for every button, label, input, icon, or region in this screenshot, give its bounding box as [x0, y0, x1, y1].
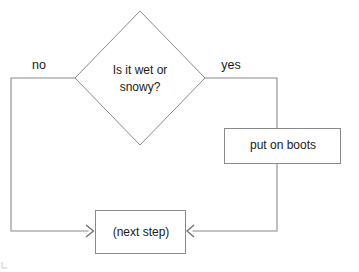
flowchart-svg: Is it wet or snowy? put on boots (next s…: [0, 0, 359, 272]
decision-diamond-shape[interactable]: [75, 11, 205, 145]
edge-action-to-next-path: [193, 163, 277, 231]
flowchart-canvas: Is it wet or snowy? put on boots (next s…: [0, 0, 359, 272]
edge-yes-path: [205, 78, 277, 128]
decision-label-line1: Is it wet or: [113, 63, 168, 77]
scan-artifact: [2, 262, 7, 268]
edge-label-no: no: [32, 58, 46, 72]
next-step-box-label: (next step): [113, 225, 170, 239]
action-box-label: put on boots: [250, 138, 316, 152]
edge-label-yes: yes: [221, 58, 240, 72]
decision-label-line2: snowy?: [120, 80, 161, 94]
edge-no-path: [11, 78, 88, 231]
